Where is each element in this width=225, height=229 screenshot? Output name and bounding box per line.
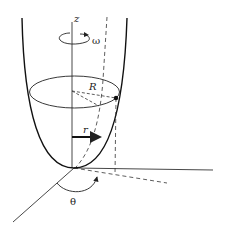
radius-R-line-2 [72, 91, 99, 106]
paraboloid-diagram: z ω R r θ [0, 0, 225, 229]
omega-label: ω [92, 35, 100, 46]
vertical-drop-line [115, 98, 116, 175]
surface-point [114, 96, 118, 100]
theta-arc [57, 177, 97, 192]
z-axis-label: z [73, 13, 80, 24]
theta-label: θ [70, 196, 76, 207]
y-axis [13, 168, 74, 222]
x-axis [74, 168, 213, 170]
r-label: r [83, 124, 89, 135]
R-label: R [88, 81, 97, 92]
projection-line [74, 168, 167, 183]
paraboloid-surface [22, 18, 127, 168]
